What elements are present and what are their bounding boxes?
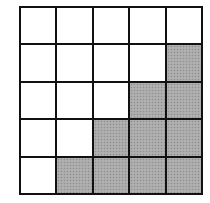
shaded-cell-r4-c5 bbox=[167, 120, 201, 155]
shaded-cell-r3-c4 bbox=[130, 83, 164, 118]
shaded-cell-r4-c4 bbox=[130, 120, 164, 155]
empty-cell-r1-c3 bbox=[94, 8, 128, 43]
empty-cell-r1-c2 bbox=[57, 8, 91, 43]
empty-cell-r3-c2 bbox=[57, 83, 91, 118]
empty-cell-r3-c3 bbox=[94, 83, 128, 118]
shaded-cell-r5-c4 bbox=[130, 158, 164, 193]
empty-cell-r1-c1 bbox=[21, 8, 55, 43]
empty-cell-r2-c1 bbox=[21, 45, 55, 80]
shaded-cell-r4-c3 bbox=[94, 120, 128, 155]
empty-cell-r1-c5 bbox=[167, 8, 201, 43]
shaded-cell-r5-c3 bbox=[94, 158, 128, 193]
empty-cell-r2-c3 bbox=[94, 45, 128, 80]
empty-cell-r2-c2 bbox=[57, 45, 91, 80]
empty-cell-r4-c2 bbox=[57, 120, 91, 155]
empty-cell-r1-c4 bbox=[130, 8, 164, 43]
empty-cell-r3-c1 bbox=[21, 83, 55, 118]
shaded-cell-r5-c5 bbox=[167, 158, 201, 193]
empty-cell-r2-c4 bbox=[130, 45, 164, 80]
shaded-cell-r5-c2 bbox=[57, 158, 91, 193]
empty-cell-r5-c1 bbox=[21, 158, 55, 193]
staircase-grid bbox=[19, 6, 203, 195]
empty-cell-r4-c1 bbox=[21, 120, 55, 155]
shaded-cell-r2-c5 bbox=[167, 45, 201, 80]
shaded-cell-r3-c5 bbox=[167, 83, 201, 118]
